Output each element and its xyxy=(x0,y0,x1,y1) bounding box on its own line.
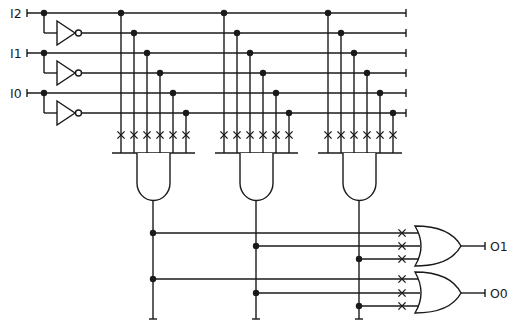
connection-dot xyxy=(131,30,137,36)
connection-dot xyxy=(338,30,344,36)
connection-dot xyxy=(351,50,357,56)
junction-dot xyxy=(253,243,259,249)
junction-dot xyxy=(150,230,156,236)
junction-dot xyxy=(150,276,156,282)
connection-dot xyxy=(260,70,266,76)
connection-dot xyxy=(170,90,176,96)
or-gate-icon xyxy=(415,272,461,313)
circuit-canvas: I2 I1 I0 O1 O0 xyxy=(0,0,513,333)
connection-dot xyxy=(286,110,292,116)
connection-dot xyxy=(144,50,150,56)
connection-dot xyxy=(118,10,124,16)
output-label-o0: O0 xyxy=(490,286,508,301)
connection-dot xyxy=(183,110,189,116)
inverter-gate-icon xyxy=(57,101,75,125)
connection-dot xyxy=(157,70,163,76)
connection-dot xyxy=(221,10,227,16)
inverter-bubble-icon xyxy=(76,110,82,116)
connection-dot xyxy=(390,110,396,116)
connection-dot xyxy=(325,10,331,16)
inverter-bubble-icon xyxy=(76,30,82,36)
circuit-wiring xyxy=(27,9,485,319)
inverter-gate-icon xyxy=(57,61,75,85)
pla-circuit-diagram: I2 I1 I0 O1 O0 xyxy=(0,0,513,333)
connection-dot xyxy=(273,90,279,96)
connection-dot xyxy=(364,70,370,76)
output-label-o1: O1 xyxy=(490,239,508,254)
connection-dot xyxy=(377,90,383,96)
junction-dot xyxy=(253,290,259,296)
connection-dot xyxy=(234,30,240,36)
junction-dot xyxy=(356,256,362,262)
inverter-bubble-icon xyxy=(76,70,82,76)
and-gate-1-icon xyxy=(137,153,170,201)
connection-dot xyxy=(247,50,253,56)
and-gate-2-icon xyxy=(240,153,273,201)
input-label-i2: I2 xyxy=(10,6,22,21)
inverter-gate-icon xyxy=(57,21,75,45)
input-label-i0: I0 xyxy=(10,86,22,101)
input-label-i1: I1 xyxy=(10,46,22,61)
junction-dot xyxy=(356,303,362,309)
and-gate-3-icon xyxy=(343,153,376,201)
or-gate-icon xyxy=(415,226,461,266)
